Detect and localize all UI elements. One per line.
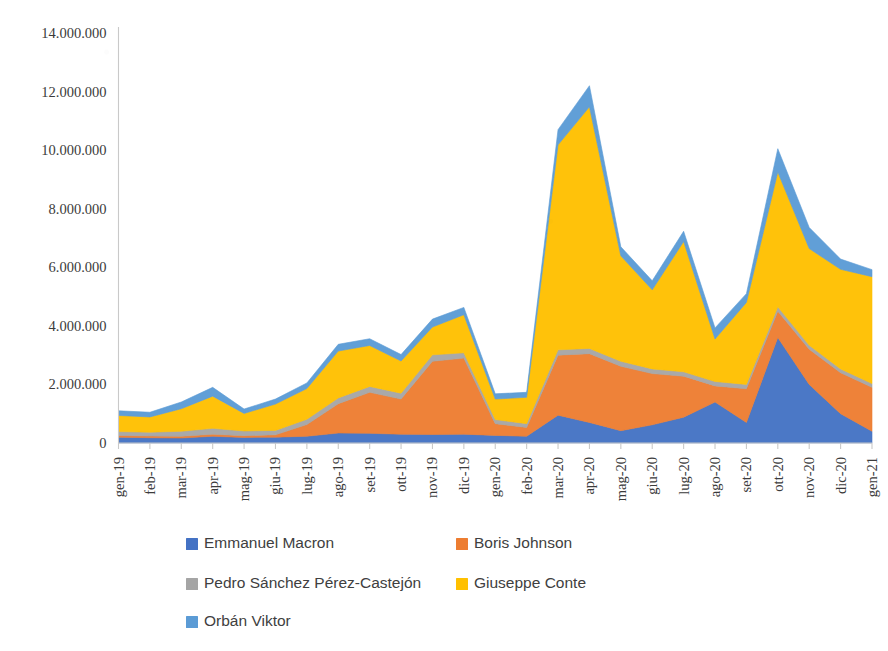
- y-axis-tick-label: 10.000.000: [41, 142, 106, 158]
- x-axis-tick-label: ago-20: [707, 457, 723, 497]
- x-axis-tick-label: mar-19: [173, 457, 189, 499]
- x-axis-tick-label: ago-19: [330, 457, 346, 497]
- legend-label: Emmanuel Macron: [204, 534, 334, 551]
- y-axis-tick-label: 4.000.000: [49, 318, 107, 334]
- chart-legend: Emmanuel MacronBoris JohnsonPedro Sánche…: [186, 534, 586, 629]
- x-axis-tick-label: dic-19: [456, 457, 472, 494]
- y-axis-tick-label: 14.000.000: [41, 25, 106, 41]
- x-axis-tick-label: gen-19: [111, 457, 127, 497]
- chart-canvas: 02.000.0004.000.0006.000.0008.000.00010.…: [0, 0, 888, 651]
- x-axis-tick-label: set-20: [738, 457, 754, 492]
- x-axis-tick-label: gen-21: [864, 457, 880, 497]
- legend-label: Pedro Sánchez Pérez-Castejón: [204, 574, 421, 591]
- legend-swatch: [186, 538, 198, 550]
- legend-label: Giuseppe Conte: [474, 574, 586, 591]
- legend-item[interactable]: Emmanuel Macron: [186, 534, 334, 551]
- x-axis-tick-label: mag-19: [236, 457, 252, 501]
- x-axis: gen-19feb-19mar-19apr-19mag-19giu-19lug-…: [111, 443, 881, 501]
- x-axis-tick-label: mag-20: [613, 457, 629, 501]
- x-axis-tick-label: ott-19: [393, 457, 409, 492]
- stacked-area-chart: 02.000.0004.000.0006.000.0008.000.00010.…: [0, 0, 888, 651]
- plot-series-group: [119, 86, 873, 443]
- legend-item[interactable]: Pedro Sánchez Pérez-Castejón: [186, 574, 421, 591]
- x-axis-tick-label: apr-20: [581, 457, 597, 495]
- legend-item[interactable]: Boris Johnson: [456, 534, 572, 551]
- legend-label: Orbán Viktor: [204, 612, 291, 629]
- x-axis-tick-label: nov-19: [424, 457, 440, 498]
- y-axis-tick-label: 0: [99, 435, 106, 451]
- legend-swatch: [186, 616, 198, 628]
- legend-item[interactable]: Giuseppe Conte: [456, 574, 586, 591]
- legend-swatch: [186, 578, 198, 590]
- x-axis-tick-label: mar-20: [550, 457, 566, 499]
- x-axis-tick-label: nov-20: [801, 457, 817, 498]
- y-axis-tick-label: 12.000.000: [41, 84, 106, 100]
- y-axis-tick-label: 6.000.000: [49, 259, 107, 275]
- x-axis-tick-label: apr-19: [205, 457, 221, 495]
- x-axis-tick-label: ott-20: [770, 457, 786, 492]
- y-axis-tick-label: 8.000.000: [49, 201, 107, 217]
- legend-swatch: [456, 578, 468, 590]
- x-axis-tick-label: feb-20: [519, 457, 535, 495]
- legend-item[interactable]: Orbán Viktor: [186, 612, 291, 629]
- x-axis-tick-label: giu-20: [644, 457, 660, 495]
- x-axis-tick-label: set-19: [362, 457, 378, 492]
- legend-label: Boris Johnson: [474, 534, 572, 551]
- x-axis-tick-label: feb-19: [142, 457, 158, 495]
- x-axis-tick-label: lug-20: [676, 457, 692, 495]
- x-axis-tick-label: gen-20: [487, 457, 503, 497]
- y-axis: 02.000.0004.000.0006.000.0008.000.00010.…: [41, 25, 118, 451]
- y-axis-tick-label: 2.000.000: [49, 376, 107, 392]
- x-axis-tick-label: dic-20: [833, 457, 849, 494]
- legend-swatch: [456, 538, 468, 550]
- x-axis-tick-label: lug-19: [299, 457, 315, 495]
- x-axis-tick-label: giu-19: [267, 457, 283, 495]
